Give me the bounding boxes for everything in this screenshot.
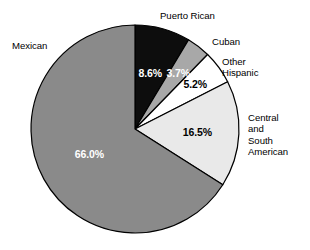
pie-chart: 8.6%3.7%5.2%16.5%66.0% Mexican Puerto Ri… [0,0,310,250]
pie-slice-value: 66.0% [75,148,105,160]
pie-label-mexican: Mexican [12,40,47,51]
pie-label-puerto-rican: Puerto Rican [160,10,215,21]
pie-slice-value: 5.2% [184,78,208,90]
pie-label-cuban: Cuban [212,36,240,47]
pie-label-other-hispanic: Other Hispanic [222,56,258,79]
pie-slice-value: 8.6% [138,67,162,79]
pie-slice-value: 16.5% [183,126,213,138]
pie-slice-value: 3.7% [166,67,190,79]
pie-label-central-and-south-american: Central and South American [248,112,288,158]
